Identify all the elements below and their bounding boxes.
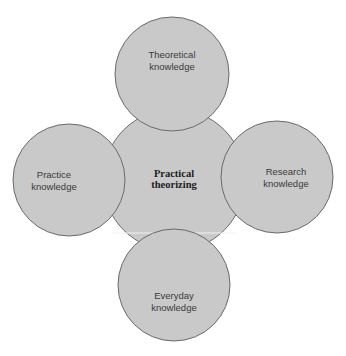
center-label-line1: Practical — [154, 168, 194, 179]
bottom-node: Everyday knowledge — [118, 229, 230, 341]
top-label-line2: knowledge — [149, 61, 194, 72]
center-label: Practical theorizing — [151, 168, 197, 190]
right-label-line1: Research — [266, 166, 307, 177]
left-circle — [13, 124, 125, 236]
left-label-line1: Practice — [37, 169, 71, 180]
left-node: Practice knowledge — [13, 124, 125, 236]
practical-theorizing-diagram: Theoretical knowledge Practice knowledge… — [0, 0, 346, 356]
bottom-label-line2: knowledge — [151, 302, 196, 313]
bottom-label-line1: Everyday — [154, 290, 194, 301]
right-node: Research knowledge — [221, 121, 333, 233]
left-label-line2: knowledge — [31, 181, 76, 192]
top-circle — [115, 17, 229, 131]
top-label-line1: Theoretical — [149, 49, 196, 60]
right-label-line2: knowledge — [263, 178, 308, 189]
center-label-line2: theorizing — [151, 179, 197, 190]
right-circle — [221, 121, 333, 233]
top-node: Theoretical knowledge — [115, 17, 229, 131]
bottom-circle — [118, 229, 230, 341]
